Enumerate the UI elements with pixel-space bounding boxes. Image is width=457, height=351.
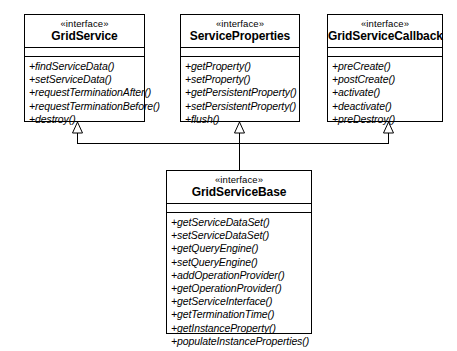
method-item: +setPersistentProperty() (185, 100, 299, 113)
attributes-compartment (25, 48, 144, 57)
attributes-compartment (167, 204, 311, 213)
attributes-compartment (328, 48, 442, 57)
class-title: GridServiceCallback (328, 29, 442, 43)
method-item: +findServiceData() (29, 60, 144, 73)
class-header-grid-service-callback: «interface» GridServiceCallback (328, 15, 442, 48)
class-title: GridServiceBase (167, 185, 311, 199)
class-title: ServiceProperties (181, 29, 299, 43)
class-stereotype: «interface» (328, 18, 442, 29)
method-item: +getInstanceProperty() (171, 322, 311, 335)
method-item: +activate() (332, 86, 442, 99)
class-stereotype: «interface» (25, 18, 144, 29)
class-box-grid-service-base[interactable]: «interface» GridServiceBase +getServiceD… (166, 170, 312, 334)
method-item: +setServiceDataSet() (171, 229, 311, 242)
methods-compartment: +getServiceDataSet() +setServiceDataSet(… (167, 213, 311, 351)
method-item: +populateInstanceProperties() (171, 335, 311, 348)
method-item: +setServiceData() (29, 73, 144, 86)
class-header-grid-service-base: «interface» GridServiceBase (167, 171, 311, 204)
class-header-grid-service: «interface» GridService (25, 15, 144, 48)
method-item: +setQueryEngine() (171, 256, 311, 269)
class-stereotype: «interface» (181, 18, 299, 29)
method-item: +getServiceInterface() (171, 295, 311, 308)
method-item: +getQueryEngine() (171, 242, 311, 255)
method-item: +destroy() (29, 113, 144, 126)
attributes-compartment (181, 48, 299, 57)
class-stereotype: «interface» (167, 174, 311, 185)
methods-compartment: +preCreate() +postCreate() +activate() +… (328, 57, 442, 130)
method-item: +getProperty() (185, 60, 299, 73)
method-item: +postCreate() (332, 73, 442, 86)
method-item: +getPersistentProperty() (185, 86, 299, 99)
method-item: +getServiceDataSet() (171, 216, 311, 229)
class-box-grid-service[interactable]: «interface» GridService +findServiceData… (24, 14, 145, 122)
method-item: +requestTerminationBefore() (29, 100, 144, 113)
method-item: +getTerminationTime() (171, 308, 311, 321)
class-title: GridService (25, 29, 144, 43)
method-item: +requestTerminationAfter() (29, 86, 144, 99)
method-item: +flush() (185, 113, 299, 126)
class-box-grid-service-callback[interactable]: «interface» GridServiceCallback +preCrea… (327, 14, 443, 122)
method-item: +deactivate() (332, 100, 442, 113)
methods-compartment: +getProperty() +setProperty() +getPersis… (181, 57, 299, 130)
method-item: +setProperty() (185, 73, 299, 86)
class-box-service-properties[interactable]: «interface» ServiceProperties +getProper… (180, 14, 300, 122)
class-header-service-properties: «interface» ServiceProperties (181, 15, 299, 48)
method-item: +preCreate() (332, 60, 442, 73)
method-item: +addOperationProvider() (171, 269, 311, 282)
methods-compartment: +findServiceData() +setServiceData() +re… (25, 57, 144, 130)
method-item: +getOperationProvider() (171, 282, 311, 295)
method-item: +preDestroy() (332, 113, 442, 126)
